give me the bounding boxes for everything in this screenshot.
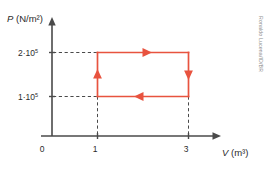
cycle-arrow-down-icon	[184, 71, 193, 81]
y-tick-label-2e5-mantissa: 2·10	[18, 48, 35, 58]
cycle-direction-arrows-group	[93, 48, 193, 101]
x-tick-label-1: 1	[93, 144, 98, 154]
pv-diagram-figure: P (N/m²) V (m³) 2·105 1·105 1 3 0 Ronald…	[0, 0, 265, 172]
image-credit: Ronaldo Lucena/ID/BR	[258, 16, 264, 86]
cycle-path-group	[98, 53, 189, 97]
origin-label: 0	[40, 144, 45, 154]
y-tick-label-1e5: 1·105	[18, 92, 38, 102]
y-axis-label-units: (N/m²)	[13, 13, 43, 24]
y-tick-label-2e5-exponent: 5	[35, 48, 38, 54]
x-axis-arrowhead	[213, 132, 222, 139]
y-tick-label-1e5-mantissa: 1·10	[18, 92, 35, 102]
y-axis-arrowhead	[48, 17, 55, 26]
x-tick-label-3: 3	[184, 144, 189, 154]
y-tick-label-1e5-exponent: 5	[35, 92, 38, 98]
cycle-arrow-up-icon	[93, 69, 102, 79]
x-axis-label-units: (m³)	[228, 147, 248, 158]
cycle-arrow-right-icon	[143, 48, 153, 57]
y-tick-label-2e5: 2·105	[18, 48, 38, 58]
axes-group	[41, 17, 221, 140]
y-axis-label: P (N/m²)	[7, 13, 43, 24]
guide-lines-group	[53, 53, 189, 136]
cycle-arrow-left-icon	[134, 92, 144, 101]
pv-diagram-canvas: P (N/m²) V (m³) 2·105 1·105 1 3 0	[0, 0, 265, 172]
x-axis-label: V (m³)	[222, 147, 248, 158]
